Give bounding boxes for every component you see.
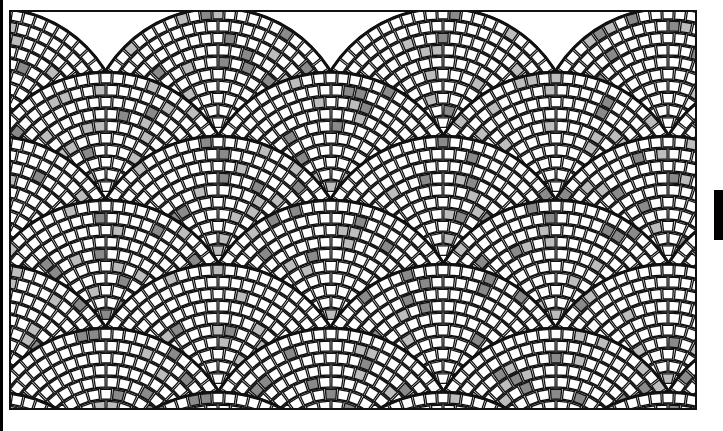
mosaic-image [9,10,697,410]
side-marker-bar [714,190,723,240]
fan-mosaic-pattern [11,12,697,410]
left-edge-border [0,0,3,431]
